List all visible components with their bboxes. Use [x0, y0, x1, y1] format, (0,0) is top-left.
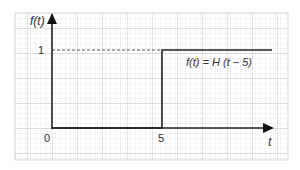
equation-annotation: f(t) = H (t − 5) — [186, 56, 252, 68]
grid-background — [15, 13, 288, 160]
y-axis-label: f(t) — [30, 14, 45, 28]
chart-canvas: f(t) 1 0 5 t f(t) = H (t − 5) — [0, 0, 300, 170]
x-tick-label: 5 — [158, 132, 164, 144]
origin-label: 0 — [44, 132, 50, 144]
y-tick-label: 1 — [38, 44, 44, 56]
